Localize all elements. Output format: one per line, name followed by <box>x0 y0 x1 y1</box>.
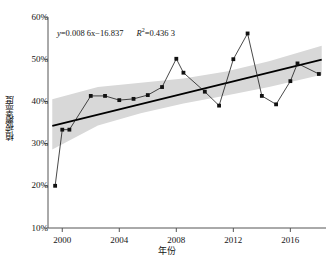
r-squared-value: =0.436 3 <box>145 28 175 38</box>
equation-expression: =0.008 6x−16.837 <box>61 28 124 38</box>
x-axis-tick-label: 2004 <box>99 236 139 245</box>
x-axis-tick-label: 2000 <box>42 236 82 245</box>
chart-figure: 10%20%30%40%50%60% 20002004200820122016 … <box>0 0 334 272</box>
y-axis-title: 植被覆盖度 <box>4 96 18 141</box>
x-axis-tick-labels: 20002004200820122016 <box>0 0 334 272</box>
x-axis-tick-label: 2008 <box>156 236 196 245</box>
x-axis-title: 年份 <box>0 246 334 256</box>
x-axis-tick-label: 2012 <box>213 236 253 245</box>
x-axis-tick-label: 2016 <box>270 236 310 245</box>
regression-annotation: y=0.008 6x−16.837R2=0.436 3 <box>57 25 175 39</box>
